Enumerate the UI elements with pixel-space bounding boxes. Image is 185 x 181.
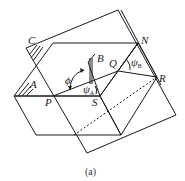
label-psi-A: ψA bbox=[83, 83, 95, 96]
label-P: P bbox=[44, 96, 52, 108]
label-phi: ϕ bbox=[65, 74, 71, 86]
figure-caption: (a) bbox=[85, 166, 96, 178]
hatch-C bbox=[31, 46, 40, 58]
prism-front-face bbox=[14, 96, 121, 135]
label-psi-B: ψB bbox=[131, 56, 142, 69]
crystal-twinning-diagram: C A B N Q R P S ϕ ψA ψB (a) bbox=[0, 0, 185, 181]
label-A: A bbox=[29, 78, 37, 90]
rotated-plane bbox=[26, 10, 176, 153]
label-S: S bbox=[92, 96, 98, 108]
phi-arrow-icon bbox=[80, 68, 84, 73]
label-Q: Q bbox=[109, 57, 117, 69]
line-Q-R bbox=[118, 71, 157, 77]
label-C: C bbox=[28, 34, 36, 46]
label-R: R bbox=[158, 72, 166, 84]
psiB-arc bbox=[127, 60, 130, 70]
label-N: N bbox=[140, 34, 149, 46]
label-B: B bbox=[97, 52, 104, 64]
